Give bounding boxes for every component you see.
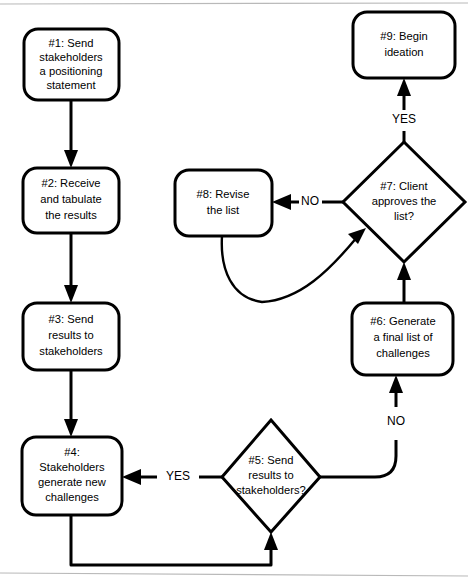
node-4-line-2: generate new	[38, 476, 107, 488]
node-2-line-2: the results	[45, 209, 97, 221]
node-2-line-0: #2: Receive	[41, 177, 100, 189]
node-3-line-2: stakeholders	[39, 345, 103, 357]
edge-label-yes-n7-n9: YES	[392, 112, 416, 126]
arrowhead	[397, 78, 411, 96]
node-5-line-0: #5: Send	[249, 454, 294, 466]
node-6-line-2: challenges	[376, 347, 430, 359]
node-1-line-0: #1: Send	[49, 37, 94, 49]
node-7-line-0: #7: Client	[380, 180, 428, 192]
edge-n6-to-n7	[397, 262, 411, 303]
node-9[interactable]: #9: Begin ideation	[353, 12, 455, 78]
node-3-line-0: #3: Send	[49, 313, 94, 325]
edge-n7-to-n9	[397, 78, 411, 142]
node-1[interactable]: #1: Send stakeholders a positioning stat…	[24, 29, 119, 100]
node-5[interactable]: #5: Send results to stakeholders?	[222, 420, 320, 532]
arrowhead	[122, 469, 141, 485]
node-6-line-0: #6: Generate	[370, 315, 435, 327]
node-9-line-1: ideation	[384, 46, 423, 58]
node-7-line-2: list?	[394, 210, 414, 222]
arrowhead	[397, 262, 411, 280]
node-7-line-1: approves the	[372, 195, 437, 207]
edge-n2-to-n3	[64, 233, 78, 303]
node-4[interactable]: #4: Stakeholders generate new challenges	[22, 437, 122, 515]
arrowhead	[64, 285, 78, 303]
edge-label-yes-n5-n4: YES	[166, 469, 190, 483]
flowchart-diagram: #1: Send stakeholders a positioning stat…	[0, 0, 468, 587]
node-8-line-1: the list	[207, 204, 240, 216]
arrowhead	[272, 194, 291, 210]
node-1-line-3: statement	[46, 79, 96, 91]
node-8[interactable]: #8: Revise the list	[175, 170, 272, 236]
node-7[interactable]: #7: Client approves the list?	[343, 142, 465, 262]
node-2-line-1: and tabulate	[40, 193, 102, 205]
flowchart-canvas: #1: Send stakeholders a positioning stat…	[0, 0, 468, 587]
arrowhead	[64, 419, 78, 437]
arrowhead	[264, 532, 278, 550]
node-4-line-0: #4:	[64, 446, 80, 458]
node-3-line-1: results to	[48, 329, 93, 341]
node-4-line-3: challenges	[45, 491, 99, 503]
arrowhead	[348, 228, 366, 244]
arrowhead	[64, 150, 78, 168]
node-5-line-2: stakeholders?	[236, 484, 306, 496]
edge-label-no-n5-n6: NO	[387, 414, 405, 428]
node-4-line-1: Stakeholders	[39, 461, 105, 473]
node-2[interactable]: #2: Receive and tabulate the results	[23, 168, 119, 233]
node-3[interactable]: #3: Send results to stakeholders	[23, 303, 119, 370]
node-1-line-1: stakeholders	[39, 51, 103, 63]
node-6-line-1: a final list of	[373, 331, 433, 343]
arrowhead	[389, 375, 403, 393]
node-5-line-1: results to	[248, 469, 293, 481]
node-8-line-0: #8: Revise	[197, 188, 250, 200]
node-1-line-2: a positioning	[40, 65, 103, 77]
node-9-line-0: #9: Begin	[380, 30, 427, 42]
bottom-divider	[0, 573, 468, 576]
node-6[interactable]: #6: Generate a final list of challenges	[352, 303, 453, 375]
edge-n4-to-n5	[71, 515, 278, 565]
top-divider	[0, 3, 468, 4]
edge-n8-to-n7	[222, 228, 366, 302]
edge-n1-to-n2	[64, 100, 78, 168]
edge-label-no-n7-n8: NO	[301, 194, 319, 208]
edge-n3-to-n4	[64, 370, 78, 437]
